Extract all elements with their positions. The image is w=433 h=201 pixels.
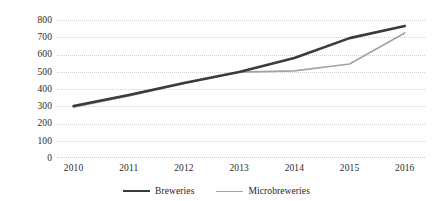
legend-label: Breweries [155, 186, 194, 197]
y-axis-tick-label: 300 [0, 101, 52, 111]
legend-line-swatch-icon [216, 191, 243, 192]
y-axis-tick-label: 0 [0, 153, 52, 163]
y-axis-tick-label: 200 [0, 118, 52, 128]
x-axis-labels: 2010 2011 2012 2013 2014 2015 2016 [57, 162, 425, 176]
x-axis-tick-label: 2014 [285, 162, 304, 174]
y-axis-tick-label: 700 [0, 32, 52, 42]
x-axis-tick-label: 2011 [119, 162, 138, 174]
x-axis-tick-label: 2010 [64, 162, 83, 174]
x-axis-tick-label: 2012 [174, 162, 193, 174]
line-chart: 800 700 600 500 400 300 200 100 0 2010 2… [0, 0, 433, 201]
y-axis-tick-label: 400 [0, 84, 52, 94]
x-axis-tick-label: 2013 [229, 162, 248, 174]
chart-legend: Breweries Microbreweries [0, 183, 433, 199]
x-axis-tick-label: 2015 [340, 162, 359, 174]
series-lines [57, 20, 425, 158]
legend-line-swatch-icon [123, 190, 150, 192]
plot-area [57, 20, 425, 158]
legend-item-microbreweries[interactable]: Microbreweries [216, 186, 310, 197]
y-axis-labels: 800 700 600 500 400 300 200 100 0 [0, 0, 52, 201]
legend-label: Microbreweries [248, 186, 310, 197]
y-axis-tick-label: 100 [0, 136, 52, 146]
legend-item-breweries[interactable]: Breweries [123, 186, 194, 197]
y-axis-tick-label: 500 [0, 67, 52, 77]
y-axis-tick-label: 600 [0, 49, 52, 59]
x-axis-tick-label: 2016 [395, 162, 414, 174]
series-line-breweries [74, 26, 405, 106]
y-axis-tick-label: 800 [0, 15, 52, 25]
